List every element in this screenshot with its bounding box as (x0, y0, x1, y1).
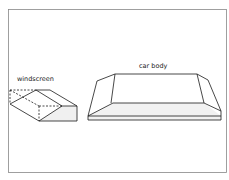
windscreen-shape (10, 90, 77, 121)
windscreen-label: windscreen (17, 75, 54, 83)
diagram-canvas (0, 0, 229, 180)
figure-frame (9, 10, 227, 173)
car-body-label: car body (139, 62, 167, 70)
car-body-shape (88, 74, 221, 120)
